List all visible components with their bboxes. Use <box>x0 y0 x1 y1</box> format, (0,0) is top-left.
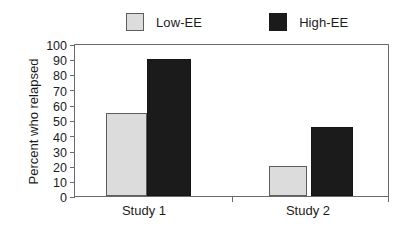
y-tick-label: 90 <box>53 55 67 68</box>
bar-study-1-low-ee <box>106 113 147 196</box>
x-tick-label-study-1: Study 1 <box>104 203 184 218</box>
y-tick-label: 0 <box>60 192 67 205</box>
legend-label-low-ee: Low-EE <box>156 15 202 30</box>
y-tick-label: 20 <box>53 162 67 175</box>
y-tick-mark <box>70 197 75 198</box>
y-tick-mark <box>70 167 75 168</box>
y-axis-title: Percent who relapsed <box>23 45 45 198</box>
legend-swatch-low-ee-icon <box>126 13 144 31</box>
bar-study-2-low-ee <box>269 166 307 196</box>
bar-study-2-high-ee <box>311 127 353 196</box>
y-tick-mark <box>70 60 75 61</box>
y-tick-label: 10 <box>53 177 67 190</box>
chart-legend: Low-EE High-EE <box>126 9 366 35</box>
y-tick-label: 50 <box>53 116 67 129</box>
y-tick-label: 70 <box>53 85 67 98</box>
y-tick-label: 40 <box>53 131 67 144</box>
y-tick-mark <box>70 136 75 137</box>
y-tick-mark <box>70 152 75 153</box>
bar-chart: Low-EE High-EE Percent who relapsed 100 … <box>0 0 410 228</box>
plot-area: 100 90 80 70 60 50 40 30 <box>74 44 389 197</box>
x-tick-label-study-2: Study 2 <box>268 203 348 218</box>
y-tick-label: 80 <box>53 70 67 83</box>
y-tick-mark <box>70 182 75 183</box>
legend-swatch-high-ee-icon <box>269 13 287 31</box>
x-tick-mark-right <box>388 196 389 202</box>
y-tick-label: 100 <box>46 39 67 52</box>
y-tick-mark <box>70 121 75 122</box>
legend-entry-high-ee: High-EE <box>269 13 348 31</box>
legend-label-high-ee: High-EE <box>299 15 348 30</box>
bar-study-1-high-ee <box>147 59 191 196</box>
y-tick-mark <box>70 45 75 46</box>
x-tick-mark-center <box>232 196 233 202</box>
legend-entry-low-ee: Low-EE <box>126 13 202 31</box>
y-tick-mark <box>70 90 75 91</box>
y-tick-mark <box>70 106 75 107</box>
y-tick-label: 60 <box>53 100 67 113</box>
y-tick-mark <box>70 75 75 76</box>
y-tick-label: 30 <box>53 146 67 159</box>
